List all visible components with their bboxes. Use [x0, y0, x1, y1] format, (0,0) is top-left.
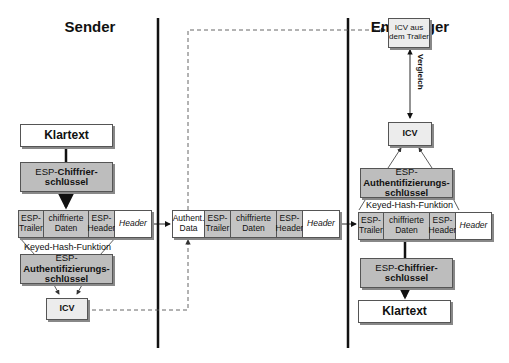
receiver-packet-header: Header	[456, 213, 491, 239]
receiver-plaintext-label: Klartext	[382, 305, 427, 318]
sender-auth-key-prefix: ESP-	[55, 252, 77, 263]
sender-title: Sender	[40, 18, 140, 35]
sender-packet-esp-trailer: ESP- Trailer	[19, 211, 44, 237]
sender-packet: ESP- Trailer chiffrierte Daten ESP- Head…	[18, 210, 152, 238]
receiver-icv-label: ICV	[402, 129, 417, 139]
receiver-auth-key-bold: Authentifizierungs-	[363, 177, 450, 188]
sender-plaintext-label: Klartext	[44, 129, 89, 142]
transit-packet-encrypted-data: chiffrierte Daten	[231, 211, 277, 237]
sender-auth-key-bold: Authentifizierungs-	[23, 263, 110, 274]
transit-packet-auth-data: Authent. Data	[173, 211, 205, 237]
sender-cipher-key-box: ESP-Chiffrier- schlüssel	[20, 162, 113, 192]
receiver-auth-key-prefix: ESP-	[395, 166, 417, 177]
sender-cipher-key-bold: Chiffrier-	[58, 166, 98, 177]
receiver-packet-esp-trailer: ESP- Trailer	[359, 213, 384, 239]
esp-diagram: Sender Klartext ESP-Chiffrier- schlüssel…	[0, 0, 509, 363]
receiver-cipher-key-line2: schlüssel	[385, 272, 428, 283]
sender-icv-label: ICV	[59, 304, 74, 314]
receiver-cipher-key-box: ESP-Chiffrier- schlüssel	[360, 258, 453, 288]
receiver-icv-trailer-label: ICV aus dem Trailer	[389, 24, 429, 42]
sender-auth-key-line2: schlüssel	[45, 273, 88, 284]
sender-hash-function-label: Keyed-Hash-Funktion	[20, 242, 115, 252]
transit-packet-header: Header	[303, 211, 339, 237]
receiver-packet-encrypted-data: chiffrierte Daten	[384, 213, 430, 239]
sender-packet-esp-header: ESP- Header	[89, 211, 115, 237]
receiver-packet-esp-header: ESP- Header	[430, 213, 456, 239]
receiver-icv-trailer-box: ICV aus dem Trailer	[388, 18, 430, 48]
compare-label: Vergleich	[416, 54, 425, 90]
receiver-packet: ESP- Trailer chiffrierte Daten ESP- Head…	[358, 212, 492, 240]
sender-packet-header: Header	[115, 211, 151, 237]
sender-packet-encrypted-data: chiffrierte Daten	[44, 211, 89, 237]
receiver-icv-box: ICV	[388, 122, 432, 146]
receiver-cipher-key-prefix: ESP-	[375, 262, 397, 273]
receiver-cipher-key-bold: Chiffrier-	[398, 262, 438, 273]
receiver-auth-key-line2: schlüssel	[385, 187, 428, 198]
receiver-hash-function-label: Keyed-Hash-Funktion	[362, 200, 457, 210]
sender-plaintext-box: Klartext	[20, 124, 113, 147]
receiver-auth-key-box: ESP-Authentifizierungs- schlüssel	[360, 168, 453, 198]
sender-icv-box: ICV	[46, 298, 88, 320]
transit-packet-esp-trailer: ESP- Trailer	[205, 211, 231, 237]
transit-packet-esp-header: ESP- Header	[277, 211, 303, 237]
sender-cipher-key-line2: schlüssel	[45, 176, 88, 187]
sender-cipher-key-prefix: ESP-	[35, 166, 57, 177]
receiver-plaintext-box: Klartext	[358, 300, 451, 323]
transit-packet: Authent. Data ESP- Trailer chiffrierte D…	[172, 210, 340, 238]
sender-auth-key-box: ESP-Authentifizierungs- schlüssel	[20, 254, 113, 284]
